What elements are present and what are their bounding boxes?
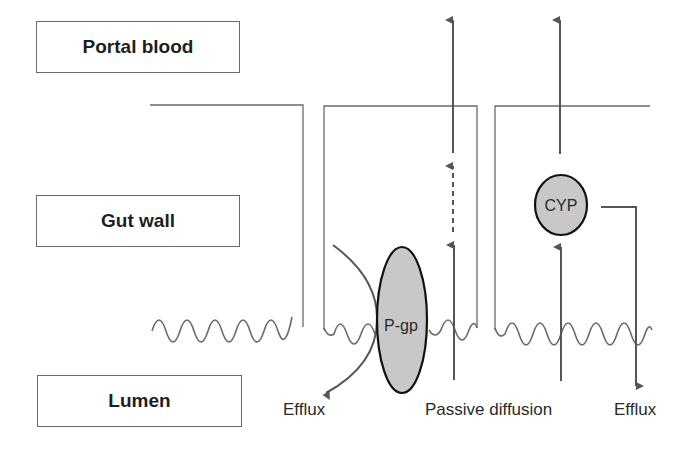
pgp-label: P-gp xyxy=(384,317,418,334)
microvilli-1 xyxy=(152,317,292,342)
pgp-efflux-arrow xyxy=(326,245,377,393)
cyp-label: CYP xyxy=(545,197,578,214)
pgp-transporter: P-gp xyxy=(377,247,427,393)
microvilli-3 xyxy=(495,323,652,345)
passive-diffusion-caption: Passive diffusion xyxy=(425,400,552,420)
enterocyte-1 xyxy=(150,105,303,342)
cyp-enzyme: CYP xyxy=(535,175,587,235)
efflux-left-caption: Efflux xyxy=(283,400,325,420)
passive-diffusion-arrow-middle xyxy=(453,20,454,380)
efflux-right-caption: Efflux xyxy=(614,400,656,420)
cyp-efflux-arrow xyxy=(601,207,636,386)
diagram-canvas: P-gp CYP xyxy=(0,0,696,449)
